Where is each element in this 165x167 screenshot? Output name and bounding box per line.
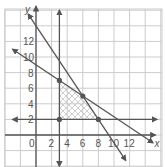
y-tick-label: 4 xyxy=(28,99,34,110)
graph: xy 02468101224681012 xyxy=(0,0,165,167)
y-tick-label: 10 xyxy=(23,52,35,63)
x-tick-label: 6 xyxy=(80,138,86,149)
vertex-point xyxy=(96,117,101,122)
tick-labels: 02468101224681012 xyxy=(23,36,135,149)
x-tick-label: 10 xyxy=(108,138,120,149)
y-axis-label: y xyxy=(24,4,31,15)
x-tick-label: 8 xyxy=(95,138,101,149)
vertex-point xyxy=(57,117,62,122)
x-tick-label: 12 xyxy=(124,138,136,149)
x-tick-label: 2 xyxy=(49,138,55,149)
x-tick-label: 0 xyxy=(29,138,35,149)
crosshatch-region xyxy=(59,80,98,119)
y-tick-label: 8 xyxy=(28,68,34,79)
x-tick-label: 4 xyxy=(64,138,70,149)
y-tick-label: 12 xyxy=(23,36,35,47)
vertex-point xyxy=(57,78,62,83)
y-tick-label: 6 xyxy=(28,83,34,94)
vertex-point xyxy=(80,93,85,98)
y-tick-label: 2 xyxy=(28,114,34,125)
shaded-feasible-region xyxy=(59,80,98,119)
x-axis-label: x xyxy=(154,138,161,149)
